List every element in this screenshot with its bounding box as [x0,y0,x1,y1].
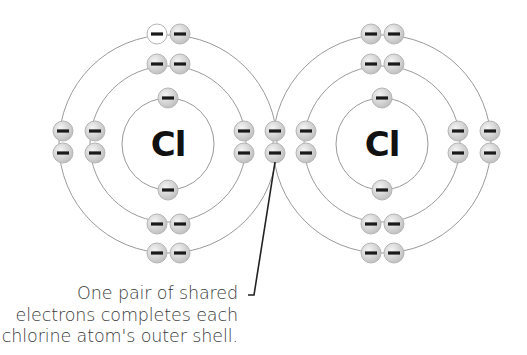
minus-sign-icon [89,151,101,154]
minus-sign-icon [452,129,464,132]
electron [85,143,105,163]
minus-sign-icon [484,129,496,132]
right-atom-symbol: Cl [365,124,400,164]
electron [361,243,381,263]
minus-sign-icon [151,32,163,35]
minus-sign-icon [174,32,186,35]
electron [361,54,381,74]
caption-line-1: One pair of shared [0,283,238,305]
minus-sign-icon [174,62,186,65]
minus-sign-icon [365,32,377,35]
electron [147,54,167,74]
minus-sign-icon [388,32,400,35]
minus-sign-icon [365,222,377,225]
minus-sign-icon [174,222,186,225]
minus-sign-icon [89,129,101,132]
electron [170,214,190,234]
left-atom-symbol: Cl [151,124,186,164]
minus-sign-icon [388,251,400,254]
electron [296,121,316,141]
electron [170,243,190,263]
minus-sign-icon [57,151,69,154]
electron [147,214,167,234]
electron [234,121,254,141]
electrons [53,24,500,263]
minus-sign-icon [269,129,281,132]
minus-sign-icon [484,151,496,154]
caption: One pair of shared electrons completes e… [0,283,238,348]
minus-sign-icon [300,129,312,132]
minus-sign-icon [238,151,250,154]
minus-sign-icon [174,251,186,254]
minus-sign-icon [388,222,400,225]
caption-line-3: chlorine atom's outer shell. [0,326,238,348]
electron-unfilled [147,24,167,44]
minus-sign-icon [376,188,388,191]
electron [384,243,404,263]
minus-sign-icon [151,251,163,254]
minus-sign-icon [162,188,174,191]
electron [480,121,500,141]
minus-sign-icon [388,62,400,65]
electron [384,24,404,44]
caption-line-2: electrons completes each [0,305,238,327]
pointer-line [248,162,275,295]
minus-sign-icon [365,62,377,65]
electron [158,180,178,200]
electron [372,88,392,108]
electron [361,214,381,234]
minus-sign-icon [57,129,69,132]
electron [448,143,468,163]
electron [448,121,468,141]
minus-sign-icon [162,96,174,99]
electron [384,214,404,234]
electron [53,121,73,141]
minus-sign-icon [376,96,388,99]
minus-sign-icon [300,151,312,154]
electron [361,24,381,44]
electron [480,143,500,163]
electron [234,143,254,163]
electron [384,54,404,74]
minus-sign-icon [151,62,163,65]
electron [296,143,316,163]
electron [85,121,105,141]
electron [53,143,73,163]
minus-sign-icon [269,151,281,154]
minus-sign-icon [238,129,250,132]
electron [170,54,190,74]
electron [372,180,392,200]
minus-sign-icon [365,251,377,254]
electron [158,88,178,108]
minus-sign-icon [452,151,464,154]
minus-sign-icon [151,222,163,225]
electron [170,24,190,44]
shared-electron [265,143,285,163]
pointer-leader-line [248,162,275,295]
shared-electron [265,121,285,141]
electron [147,243,167,263]
